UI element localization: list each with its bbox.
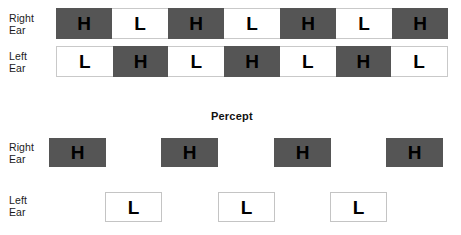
- percept-right-block: H: [161, 138, 218, 167]
- stimulus-right-ear-label-line2: Ear: [9, 24, 34, 36]
- stimulus-left-ear-row: L H L H L H L: [56, 46, 448, 77]
- stimulus-cell: L: [168, 46, 224, 77]
- stimulus-cell: H: [392, 8, 448, 39]
- percept-right-ear-label-line1: Right: [9, 141, 34, 153]
- stimulus-right-ear-label: Right Ear: [9, 12, 34, 36]
- stimulus-left-ear-label-line2: Ear: [9, 62, 27, 74]
- stimulus-left-ear-label-line1: Left: [9, 50, 27, 62]
- percept-left-block: L: [105, 192, 162, 222]
- percept-right-ear-label-line2: Ear: [9, 153, 34, 165]
- stimulus-left-ear-label: Left Ear: [9, 50, 27, 74]
- stimulus-cell: L: [56, 46, 113, 77]
- stimulus-right-ear-label-line1: Right: [9, 12, 34, 24]
- percept-left-block: L: [218, 192, 275, 222]
- percept-title: Percept: [211, 110, 253, 122]
- stimulus-cell: H: [336, 46, 392, 77]
- stimulus-right-ear-row: H L H L H L H: [56, 8, 448, 39]
- stimulus-cell: L: [336, 8, 392, 39]
- stimulus-cell: H: [224, 46, 280, 77]
- percept-right-ear-label: Right Ear: [9, 141, 34, 165]
- stimulus-cell: L: [391, 46, 448, 77]
- percept-left-ear-label: Left Ear: [9, 194, 27, 218]
- stimulus-cell: L: [112, 8, 168, 39]
- percept-right-block: H: [274, 138, 331, 167]
- percept-right-block: H: [49, 138, 106, 167]
- stimulus-cell: H: [56, 8, 112, 39]
- percept-left-ear-label-line1: Left: [9, 194, 27, 206]
- stimulus-cell: L: [280, 46, 336, 77]
- percept-left-ear-label-line2: Ear: [9, 206, 27, 218]
- percept-right-block: H: [386, 138, 443, 167]
- percept-left-block: L: [330, 192, 387, 222]
- stimulus-cell: H: [168, 8, 224, 39]
- stimulus-cell: H: [113, 46, 169, 77]
- stimulus-cell: H: [280, 8, 336, 39]
- stimulus-cell: L: [224, 8, 280, 39]
